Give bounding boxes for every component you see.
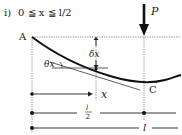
- x-label: x: [101, 88, 108, 101]
- load-label: P: [150, 5, 159, 18]
- x-dimension: [30, 92, 93, 97]
- case-condition: 0 ≦ x ≦ l/2: [18, 7, 72, 18]
- half-span-numerator: l: [86, 104, 88, 112]
- point-c-label: C: [149, 84, 157, 95]
- half-span-dimension: [30, 111, 176, 115]
- point-x-dot: [95, 68, 98, 71]
- half-span-denominator: 2: [86, 113, 90, 121]
- point-a-label: A: [18, 31, 27, 42]
- case-prefix: i): [4, 7, 11, 18]
- span-label: l: [143, 122, 146, 133]
- load-arrow: [139, 4, 149, 36]
- slope-label: θx: [44, 59, 55, 69]
- deflection-label: δx: [89, 49, 100, 59]
- span-dimension: [30, 126, 178, 130]
- beam-deflection-diagram: i) 0 ≦ x ≦ l/2 P A θx δx C x: [0, 0, 182, 135]
